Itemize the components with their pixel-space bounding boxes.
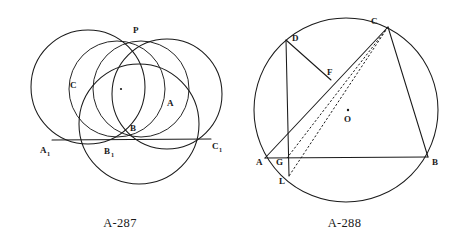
segment-bc — [388, 27, 428, 157]
label-b1-subscript: 1 — [111, 151, 114, 158]
label-o: O — [344, 114, 351, 124]
figure-a-287-canvas: P A B C A 1 B 1 C 1 — [0, 0, 240, 215]
label-a: A — [167, 98, 174, 108]
center-dot — [120, 88, 122, 90]
segment-dl-vertical — [286, 40, 289, 176]
label-f: F — [327, 67, 333, 77]
dashed-segment-cl — [289, 27, 388, 176]
label-b1: B — [104, 146, 110, 156]
caption-a-287: A-287 — [0, 216, 240, 231]
label-c: C — [70, 80, 77, 90]
segment-ac — [265, 27, 388, 158]
bottom-circle — [79, 64, 199, 184]
figure-a-288: A B C D F G L O A-288 — [230, 0, 459, 248]
label-a1: A — [40, 145, 47, 155]
label-d: D — [292, 33, 299, 43]
dashed-segment-cg — [287, 27, 388, 158]
label-b: B — [130, 123, 136, 133]
small-mid-circle — [69, 41, 165, 137]
segment-df — [286, 40, 331, 80]
big-right-circle — [112, 39, 222, 149]
label-a1-subscript: 1 — [47, 150, 50, 157]
label-g: G — [276, 157, 283, 167]
circumcircle — [254, 18, 438, 202]
center-dot-o — [347, 109, 349, 111]
segment-ab — [265, 157, 428, 158]
label-p: P — [133, 25, 139, 35]
caption-a-288: A-288 — [230, 216, 459, 231]
transversal-line-a1c1 — [52, 139, 211, 140]
label-a: A — [256, 157, 263, 167]
small-inner-circle — [93, 41, 189, 137]
diagram-page: P A B C A 1 B 1 C 1 A-287 — [0, 0, 459, 248]
label-b: B — [432, 157, 438, 167]
label-c1-subscript: 1 — [219, 146, 222, 153]
figure-a-287: P A B C A 1 B 1 C 1 A-287 — [0, 0, 240, 248]
label-c1: C — [212, 141, 219, 151]
figure-a-288-canvas: A B C D F G L O — [230, 0, 459, 215]
label-c: C — [371, 16, 378, 26]
label-l: L — [279, 176, 285, 186]
